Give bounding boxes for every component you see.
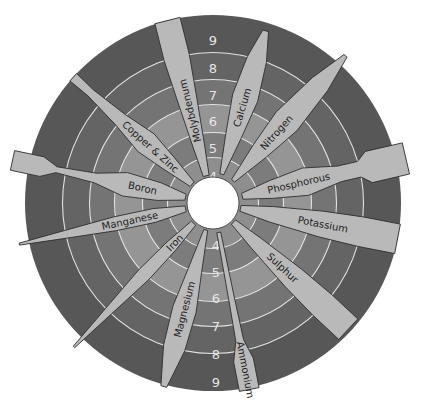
ring-label-top-6: 6 (209, 114, 217, 129)
ring-label-top-8: 8 (209, 61, 217, 76)
ring-label-bottom-5: 5 (212, 265, 220, 280)
ring-label-bottom-7: 7 (212, 319, 220, 334)
ring-label-bottom-9: 9 (212, 375, 220, 390)
ring-label-bottom-8: 8 (212, 347, 220, 362)
ring-label-bottom-6: 6 (212, 291, 220, 306)
nutrient-ph-wheel: 4 5 6 7 8 9 4 5 6 7 8 9 MolybdenumCalciu… (0, 0, 428, 410)
ring-label-top-5: 5 (209, 141, 217, 156)
ring-label-top-7: 7 (209, 88, 217, 103)
center-hole (187, 177, 239, 229)
ring-label-top-9: 9 (209, 33, 217, 48)
